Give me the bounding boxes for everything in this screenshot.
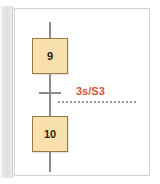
step-block-10[interactable]: 10 [32,116,68,152]
step-number-label: 10 [44,129,56,140]
transition-condition-label: 3s/S3 [76,84,105,98]
transition-bar[interactable] [39,92,61,94]
link-line-outgoing [49,151,51,172]
link-line-incoming [49,22,51,39]
screenshot-root: 9 3s/S3 10 [0,0,160,184]
step-number-label: 9 [47,51,53,62]
sfc-diagram: 9 3s/S3 10 [0,0,160,184]
transition-condition-leader-icon [58,101,136,103]
link-line-between-steps [49,73,51,117]
step-block-9[interactable]: 9 [32,38,68,74]
